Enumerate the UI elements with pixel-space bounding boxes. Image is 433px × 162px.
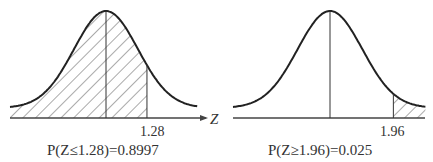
left-figure: Z 1.28 P(Z≤1.28)=0.8997 [10, 11, 219, 159]
right-caption: P(Z≥1.96)=0.025 [268, 142, 372, 159]
right-normal-curve [233, 11, 425, 107]
left-caption: P(Z≤1.28)=0.8997 [47, 142, 159, 159]
right-cutoff-label: 1.96 [380, 124, 405, 139]
axis-arrow-icon [200, 115, 208, 121]
right-figure: 1.96 P(Z≥1.96)=0.025 [233, 11, 425, 159]
left-cutoff-label: 1.28 [140, 124, 165, 139]
z-axis-label: Z [210, 111, 219, 127]
normal-distribution-diagrams: Z 1.28 P(Z≤1.28)=0.8997 1.96 P(Z≥1.96)=0… [0, 0, 433, 162]
